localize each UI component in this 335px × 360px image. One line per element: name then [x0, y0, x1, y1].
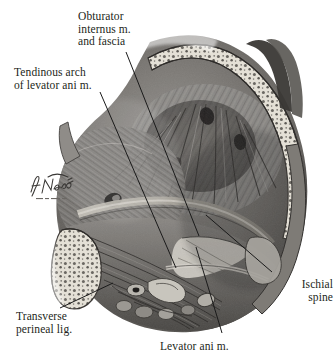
leader-transverse-perineal [60, 283, 113, 308]
label-obturator-internus-line-1: Obturator [78, 10, 124, 22]
leader-ischial-spine [206, 215, 272, 272]
label-levator-ani-line-1: Levator ani m. [160, 340, 229, 352]
label-tendinous-arch-line-2: of levator ani m. [14, 79, 92, 91]
leader-levator-ani [196, 247, 222, 333]
label-ischial-spine: Ischialspine [302, 278, 333, 303]
label-tendinous-arch-line-1: Tendinous arch [14, 66, 86, 78]
label-obturator-internus-line-3: and fascia [78, 35, 125, 47]
label-obturator-internus: Obturatorinternus m.and fascia [78, 10, 131, 48]
label-ischial-spine-line-2: spine [308, 291, 333, 303]
label-ischial-spine-line-1: Ischial [302, 278, 333, 290]
artist-signature [28, 170, 78, 202]
label-transverse-perineal-lig-line-2: perineal lig. [16, 323, 72, 335]
illustration-figure: Obturatorinternus m.and fascia Tendinous… [0, 0, 335, 360]
label-tendinous-arch: Tendinous archof levator ani m. [14, 66, 92, 91]
label-transverse-perineal-lig: Transverseperineal lig. [16, 310, 72, 335]
leader-obturator-internus [126, 52, 199, 236]
label-obturator-internus-line-2: internus m. [78, 23, 131, 35]
leader-tendinous-arch [100, 92, 176, 268]
label-transverse-perineal-lig-line-1: Transverse [16, 310, 67, 322]
label-levator-ani: Levator ani m. [160, 340, 229, 353]
